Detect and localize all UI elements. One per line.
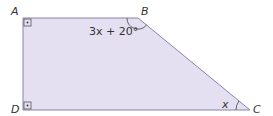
angle-label-c: x <box>221 98 229 111</box>
vertex-label-a: A <box>10 5 19 18</box>
trapezoid-diagram: A B C D 3x + 20° x <box>0 0 273 116</box>
vertex-label-d: D <box>11 103 19 116</box>
angle-label-b: 3x + 20° <box>89 25 138 38</box>
vertex-label-c: C <box>253 103 261 116</box>
vertex-label-b: B <box>141 5 149 18</box>
